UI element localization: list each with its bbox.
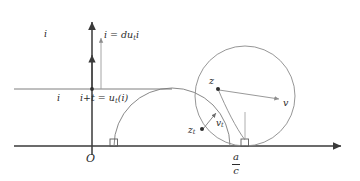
diagram-svg [0,0,360,181]
point-z-dot [216,87,220,91]
point-zt-label: zt [188,126,195,136]
figure-canvas: i i O i = duti i+t = ut(i) z v zt vt a c [0,0,360,181]
flow-equation-main: i = du [104,29,133,40]
endpoint-numerator: a [232,152,240,163]
point-i-label: i [57,93,60,103]
flow-equation-label: i = duti [104,30,139,41]
point-equation-label: i+t = ut(i) [80,93,128,104]
endpoint-denominator: c [232,166,240,177]
point-i-dot [90,87,94,91]
origin-label: O [86,153,95,164]
point-zt-dot [200,127,204,131]
point-equation-main: i+t = u [80,92,115,103]
flow-equation-tail: i [136,29,139,40]
vector-vt-label: vt [216,119,224,129]
vector-v-label: v [283,98,288,108]
vector-vt-subscript: t [221,121,224,129]
vector-vt-arrow [203,113,216,129]
endpoint-fraction-label: a c [232,152,240,176]
inner-geodesic-arc [218,89,245,140]
point-equation-tail: (i) [118,92,128,103]
imaginary-axis-label: i [44,29,47,39]
point-z-label: z [209,76,214,86]
vector-v-arrow [219,90,279,99]
point-zt-subscript: t [193,128,196,136]
